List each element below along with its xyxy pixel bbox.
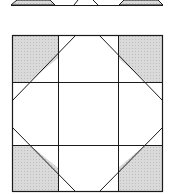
shaded-trapezoid-left (11, 0, 55, 5)
shaded-corner-bottom-left (12, 145, 58, 192)
quilt-block (12, 35, 163, 192)
strip-diag-2 (93, 0, 98, 5)
shaded-corner-bottom-right (118, 145, 163, 192)
top-strip (11, 0, 163, 6)
shaded-trapezoid-right (119, 0, 163, 5)
shaded-corner-top-left (12, 35, 58, 82)
quilt-diagram (0, 0, 174, 194)
strip-diag-1 (74, 0, 78, 5)
shaded-corner-top-right (118, 35, 163, 82)
